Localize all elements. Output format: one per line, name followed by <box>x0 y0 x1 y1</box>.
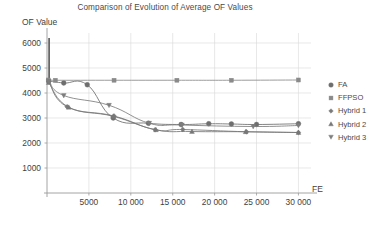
square-marker-icon <box>325 92 337 104</box>
series-fa <box>46 79 301 127</box>
legend-item-label: Hybrid 3 <box>338 133 366 142</box>
triangle-up-marker-icon <box>325 118 337 130</box>
x-tick-label: 10 000 <box>108 197 154 207</box>
legend-item-fa[interactable]: FA <box>325 78 382 91</box>
y-tick-label: 1000 <box>9 163 41 173</box>
legend-item-label: FA <box>338 80 347 89</box>
y-tick-label: 4000 <box>9 88 41 98</box>
series-ffpso <box>46 78 300 82</box>
x-tick-label: 15 000 <box>150 197 196 207</box>
legend-item-ffpso[interactable]: FFPSO <box>325 91 382 104</box>
legend-item-hybrid-2[interactable]: Hybrid 2 <box>325 118 382 131</box>
x-tick-label: 5000 <box>66 197 112 207</box>
legend-item-label: Hybrid 1 <box>338 106 366 115</box>
y-tick-label: 3000 <box>9 113 41 123</box>
chart-legend: FAFFPSOHybrid 1Hybrid 2Hybrid 3 <box>325 78 382 144</box>
circle-marker-icon <box>325 79 337 91</box>
x-tick-label: 25 000 <box>234 197 280 207</box>
series-hybrid-3 <box>46 79 301 129</box>
chart-figure: Comparison of Evolution of Average OF Va… <box>0 0 382 232</box>
x-tick-label: 30 000 <box>275 197 321 207</box>
y-tick-label: 6000 <box>9 38 41 48</box>
y-tick-label: 2000 <box>9 138 41 148</box>
legend-item-label: Hybrid 2 <box>338 120 366 129</box>
legend-item-hybrid-1[interactable]: Hybrid 1 <box>325 104 382 117</box>
x-tick-label: 20 000 <box>192 197 238 207</box>
diamond-marker-icon <box>325 105 337 117</box>
legend-item-label: FFPSO <box>338 93 363 102</box>
legend-item-hybrid-3[interactable]: Hybrid 3 <box>325 131 382 144</box>
y-tick-label: 5000 <box>9 63 41 73</box>
triangle-down-marker-icon <box>325 131 337 143</box>
